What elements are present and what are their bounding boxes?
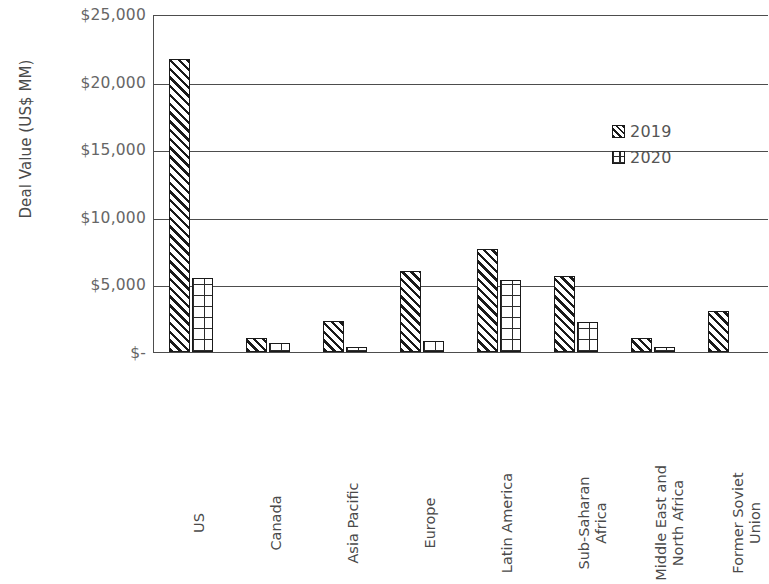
legend-item[interactable]: 2020 bbox=[612, 144, 762, 170]
bar-group bbox=[308, 16, 385, 352]
x-axis-tick-label: Latin America bbox=[499, 443, 516, 584]
legend-item-label: 2020 bbox=[630, 148, 672, 167]
grid-crosshatch-swatch bbox=[612, 151, 625, 164]
bar-2019 bbox=[400, 271, 421, 352]
legend-item-label: 2019 bbox=[630, 122, 672, 141]
x-axis-tick-label: Sub-Saharan Africa bbox=[576, 443, 610, 584]
y-axis-tick-label: $25,000 bbox=[38, 8, 146, 24]
bar-2020 bbox=[346, 347, 367, 352]
bar-group bbox=[385, 16, 462, 352]
bar-2020 bbox=[423, 341, 444, 352]
chart-legend: 20192020 bbox=[612, 118, 762, 170]
legend-item[interactable]: 2019 bbox=[612, 118, 762, 144]
x-axis-tick-label: Europe bbox=[422, 443, 439, 584]
bar-2020 bbox=[577, 322, 598, 352]
x-axis-tick-label: US bbox=[191, 443, 208, 584]
bar-2020 bbox=[192, 278, 213, 352]
bar-group bbox=[462, 16, 539, 352]
bar-2019 bbox=[477, 249, 498, 352]
y-axis-title: Deal Value (US$ MM) bbox=[17, 29, 35, 249]
bar-group bbox=[615, 16, 692, 352]
x-axis-tick-label: Middle East and North Africa bbox=[653, 443, 687, 584]
bar-group bbox=[154, 16, 231, 352]
y-axis-tick-label: $15,000 bbox=[38, 143, 146, 159]
y-axis-tick-label: $20,000 bbox=[38, 76, 146, 92]
bar-group bbox=[231, 16, 308, 352]
bar-group bbox=[692, 16, 769, 352]
diagonal-hatch-swatch bbox=[612, 125, 625, 138]
bar-group bbox=[538, 16, 615, 352]
bar-2020 bbox=[269, 343, 290, 352]
bar-2020 bbox=[500, 280, 521, 352]
bar-2019 bbox=[323, 321, 344, 352]
bar-2019 bbox=[708, 311, 729, 352]
x-axis-tick-label: Canada bbox=[268, 443, 285, 584]
y-axis-tick-label: $- bbox=[38, 346, 146, 362]
y-axis-tick-labels: $-$5,000$10,000$15,000$20,000$25,000 bbox=[36, 0, 146, 527]
plot-area bbox=[153, 15, 768, 353]
y-axis-tick-label: $5,000 bbox=[38, 278, 146, 294]
x-axis-tick-label: Former Soviet Union bbox=[730, 443, 764, 584]
y-axis-tick-label: $10,000 bbox=[38, 211, 146, 227]
bar-2019 bbox=[246, 338, 267, 352]
bar-2019 bbox=[631, 338, 652, 352]
bar-2019 bbox=[169, 59, 190, 352]
x-axis-tick-label: Asia Pacific bbox=[345, 443, 362, 584]
bar-2019 bbox=[554, 276, 575, 352]
x-axis-tick-labels: USCanadaAsia PacificEuropeLatin AmericaS… bbox=[153, 353, 768, 527]
bar-2020 bbox=[654, 347, 675, 352]
